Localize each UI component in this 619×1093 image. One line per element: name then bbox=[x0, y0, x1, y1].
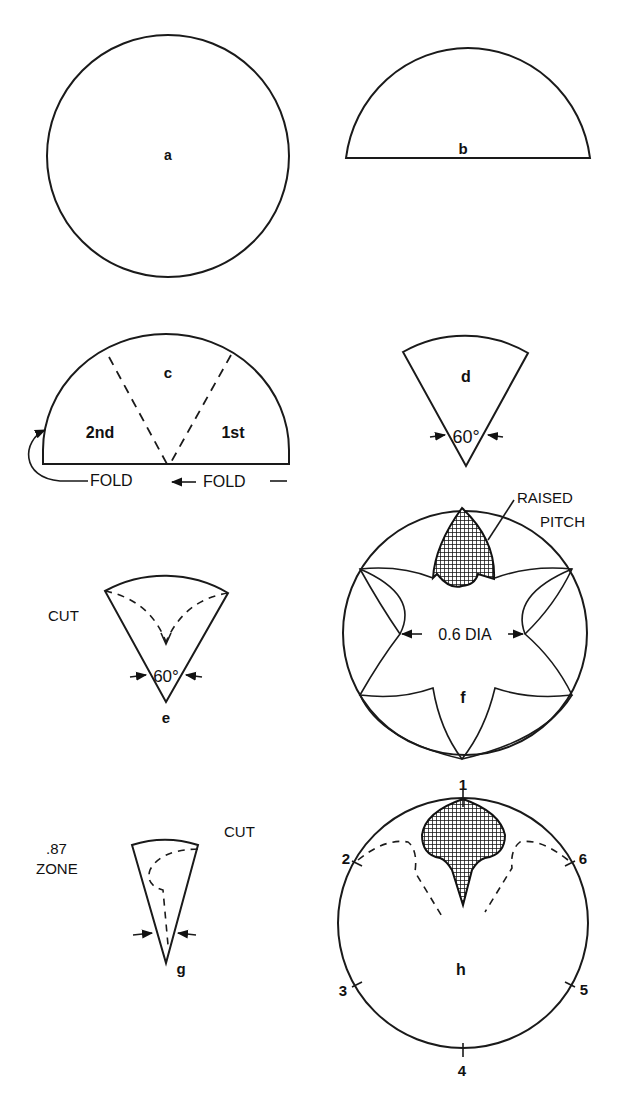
figure-h-label: h bbox=[456, 961, 466, 978]
semicircle-outline bbox=[43, 334, 289, 464]
raised-pitch-area bbox=[422, 799, 505, 905]
mark-1-label: 1 bbox=[459, 776, 467, 793]
fold-label-left: FOLD bbox=[90, 472, 133, 489]
dimension-label: 0.6 DIA bbox=[438, 626, 492, 643]
diagram-svg: a b c 2nd 1st FOLD FOLD d 60° CUT 60° bbox=[0, 0, 619, 1093]
angle-arrow-right-icon bbox=[186, 675, 202, 677]
figure-a: a bbox=[47, 35, 289, 277]
figure-f: 0.6 DIA f RAISED PITCH bbox=[343, 489, 587, 759]
angle-arrow-right-icon bbox=[488, 435, 503, 437]
figure-c-label: c bbox=[164, 364, 172, 381]
fold-curved-arrow-icon bbox=[29, 430, 88, 481]
figure-g-label: g bbox=[176, 960, 185, 977]
cut-label: CUT bbox=[48, 607, 79, 624]
angle-arrow-left-icon bbox=[133, 933, 152, 935]
figure-a-label: a bbox=[164, 147, 172, 163]
callout-raised: RAISED bbox=[517, 489, 573, 506]
mark-2-label: 2 bbox=[342, 850, 350, 867]
figure-b-label: b bbox=[458, 140, 467, 157]
figure-g: CUT .87 ZONE g bbox=[36, 823, 255, 977]
figure-b: b bbox=[346, 48, 590, 158]
mark-5-label: 5 bbox=[580, 981, 588, 998]
petal-arc bbox=[360, 569, 405, 634]
figure-e-label: e bbox=[162, 709, 170, 726]
angle-label: 60° bbox=[153, 667, 179, 686]
callout-pitch: PITCH bbox=[540, 513, 585, 530]
angle-arrow-left-icon bbox=[430, 435, 445, 437]
figure-h: 1 2 3 4 5 6 h bbox=[338, 776, 588, 1079]
cut-line-right bbox=[166, 593, 228, 642]
zone-value: .87 bbox=[46, 840, 67, 857]
mark-3-label: 3 bbox=[339, 982, 347, 999]
figure-d-label: d bbox=[461, 368, 471, 385]
cut-label: CUT bbox=[224, 823, 255, 840]
cut-line-left bbox=[105, 591, 166, 642]
fold-label-right: FOLD bbox=[203, 473, 246, 490]
narrow-sector-outline bbox=[132, 840, 198, 963]
angle-label: 60° bbox=[452, 427, 479, 447]
mark-4-label: 4 bbox=[458, 1062, 467, 1079]
zone-label: ZONE bbox=[36, 860, 78, 877]
angle-arrow-right-icon bbox=[178, 933, 196, 935]
petal-arc bbox=[360, 695, 462, 759]
petal-arc bbox=[462, 695, 572, 759]
section-1st-label: 1st bbox=[221, 424, 245, 441]
cut-tip bbox=[161, 633, 171, 644]
fold-line-2nd bbox=[109, 357, 167, 464]
figure-e: CUT 60° e bbox=[48, 576, 228, 726]
angle-arrow-left-icon bbox=[130, 675, 146, 677]
mark-6-label: 6 bbox=[579, 850, 587, 867]
pattern-diagram: a b c 2nd 1st FOLD FOLD d 60° CUT 60° bbox=[0, 0, 619, 1093]
section-2nd-label: 2nd bbox=[86, 424, 114, 441]
figure-d: d 60° bbox=[403, 336, 528, 466]
fold-line-1st bbox=[170, 355, 231, 464]
raised-pitch-area bbox=[433, 508, 494, 587]
figure-c: c 2nd 1st FOLD FOLD bbox=[29, 334, 289, 490]
figure-f-label: f bbox=[460, 689, 466, 706]
semicircle-outline bbox=[346, 48, 590, 158]
petal-arc bbox=[522, 569, 572, 634]
